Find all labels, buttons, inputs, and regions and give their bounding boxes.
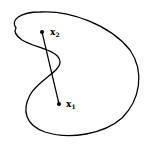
segment-x1-x2 — [42, 32, 59, 104]
point-x1 — [57, 102, 61, 106]
point-x2 — [40, 30, 44, 34]
label-x1: x1 — [66, 99, 76, 110]
label-x2: x2 — [50, 27, 60, 38]
set-boundary — [14, 12, 139, 136]
nonconvex-set-diagram: x2 x1 — [0, 0, 148, 146]
